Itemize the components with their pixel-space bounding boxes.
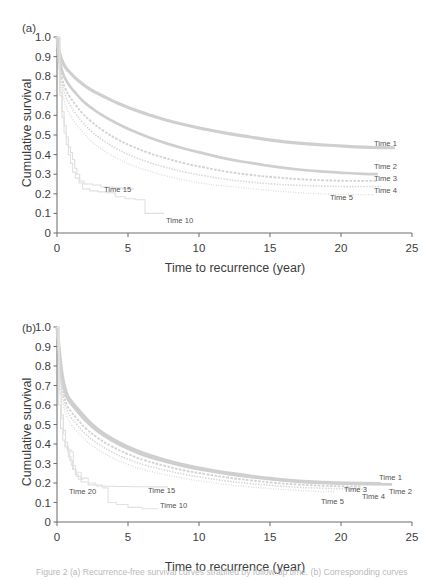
y-tick-label: 0.2	[35, 188, 51, 200]
series-curve-time-2	[57, 327, 392, 484]
x-tick-label: 0	[54, 242, 60, 254]
series-curve-time-3	[57, 327, 361, 487]
series-label-time-5: Time 5	[321, 497, 344, 506]
x-tick-label: 15	[264, 242, 277, 254]
y-tick-label: 0	[45, 227, 51, 239]
x-tick-label: 20	[335, 531, 348, 543]
series-label-time-10: Time 10	[166, 216, 193, 225]
y-tick-label: 0.5	[35, 129, 51, 141]
x-tick-label: 10	[193, 242, 206, 254]
y-tick-label: 0.1	[35, 497, 51, 509]
y-tick-label: 0.2	[35, 477, 51, 489]
y-tick-label: 0.8	[35, 70, 51, 82]
x-tick-label: 15	[264, 531, 277, 543]
series-label-time-15: Time 15	[104, 185, 131, 194]
panel-a-series-labels: Time 1Time 2Time 3Time 4Time 5Time 15Tim…	[104, 139, 397, 225]
series-curve-time-4	[57, 37, 381, 187]
y-tick-label: 0.9	[35, 51, 51, 63]
series-curve-time-1	[57, 37, 395, 148]
x-tick-label: 25	[406, 242, 419, 254]
y-tick-label: 0	[45, 516, 51, 528]
panel-a-x-axis-title: Time to recurrence (year)	[165, 261, 306, 275]
x-tick-label: 0	[54, 531, 60, 543]
series-label-time-5: Time 5	[330, 193, 353, 202]
y-tick-label: 0.5	[35, 419, 51, 431]
panel-b-plot: (b) Cumulative survival Time to recurren…	[0, 290, 438, 580]
series-label-time-4: Time 4	[362, 492, 385, 501]
series-label-time-10: Time 10	[160, 501, 187, 510]
series-label-time-2: Time 2	[389, 487, 412, 496]
y-tick-label: 0.4	[35, 149, 52, 161]
series-label-time-15: Time 15	[148, 486, 175, 495]
panel-b-curves	[57, 327, 392, 509]
series-label-time-1: Time 1	[379, 473, 402, 482]
series-curve-time-4	[57, 327, 367, 489]
x-tick-label: 25	[406, 531, 419, 543]
x-tick-label: 20	[335, 242, 348, 254]
x-tick-label: 5	[125, 242, 131, 254]
series-label-time-20: Time 20	[69, 487, 96, 496]
series-curve-time-1	[57, 327, 381, 484]
y-tick-label: 0.6	[35, 399, 51, 411]
figure-caption: Figure 2 (a) Recurrence-free survival cu…	[36, 566, 432, 578]
y-tick-label: 0.3	[35, 168, 51, 180]
series-label-time-4: Time 4	[374, 186, 397, 195]
y-tick-label: 0.6	[35, 109, 51, 121]
panel-b: (b) Cumulative survival Time to recurren…	[0, 290, 438, 580]
panel-b-y-axis-title: Cumulative survival	[20, 378, 34, 486]
series-label-time-3: Time 3	[374, 174, 397, 183]
series-curve-time-2	[57, 37, 378, 174]
y-tick-label: 1.0	[35, 31, 51, 43]
y-tick-label: 0.8	[35, 360, 51, 372]
y-tick-label: 0.7	[35, 380, 51, 392]
y-tick-label: 0.9	[35, 341, 51, 353]
x-tick-label: 5	[125, 531, 131, 543]
series-label-time-2: Time 2	[374, 162, 397, 171]
x-tick-label: 10	[193, 531, 206, 543]
panel-a-y-axis-title: Cumulative survival	[20, 79, 34, 187]
y-tick-label: 0.7	[35, 90, 51, 102]
y-tick-label: 1.0	[35, 321, 51, 333]
y-tick-label: 0.1	[35, 207, 51, 219]
series-curve-time-3	[57, 37, 378, 181]
y-tick-label: 0.4	[35, 438, 52, 450]
series-label-time-1: Time 1	[374, 139, 397, 148]
panel-a-plot: (a) Cumulative survival Time to recurren…	[0, 0, 438, 290]
panel-b-axes: 00.10.20.30.40.50.60.70.80.91.0051015202…	[35, 321, 418, 543]
panel-a: (a) Cumulative survival Time to recurren…	[0, 0, 438, 290]
figure-container: (a) Cumulative survival Time to recurren…	[0, 0, 438, 580]
y-tick-label: 0.3	[35, 458, 51, 470]
